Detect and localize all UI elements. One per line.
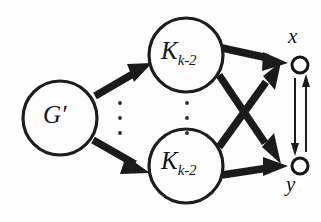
ellipsis-left-icon — [118, 101, 122, 135]
diagram-canvas: G′ Kk-2 Kk-2 x y — [0, 0, 321, 222]
node-x[interactable] — [292, 57, 308, 73]
node-label-x: x — [288, 24, 297, 49]
edge-gprime-to-k-bottom — [93, 140, 150, 174]
edge-gprime-to-k-top — [95, 63, 152, 96]
node-label-k-top: Kk-2 — [161, 37, 196, 69]
edge-y-to-x — [302, 74, 310, 152]
node-label-gprime: G′ — [43, 101, 67, 129]
edge-x-to-y — [291, 78, 299, 156]
edge-k-bottom-to-x — [219, 62, 281, 147]
node-label-y: y — [286, 172, 295, 197]
edge-k-top-to-y — [219, 75, 281, 164]
node-label-k-bottom: Kk-2 — [161, 147, 196, 179]
